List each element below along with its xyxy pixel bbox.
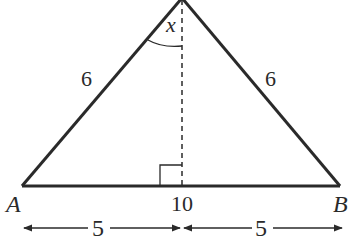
angle-arc [148,40,182,46]
side-right [182,0,340,186]
right-angle-marker [160,165,182,186]
left-segment-label: 5 [92,215,104,239]
vertex-b-label: B [333,191,348,217]
side-right-label: 6 [265,66,276,91]
side-left [22,0,182,186]
angle-label: x [165,12,176,37]
base-label: 10 [171,191,193,216]
side-left-label: 6 [81,66,92,91]
vertex-a-label: A [4,191,21,217]
right-segment-label: 5 [255,215,267,239]
triangle-diagram: x 6 6 A 10 B 5 5 [0,0,357,239]
